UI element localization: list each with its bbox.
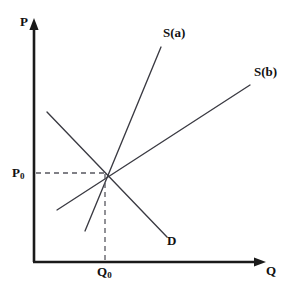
supply-curve-b — [57, 85, 250, 210]
price-axis-label: P — [20, 15, 28, 28]
demand-curve-label: D — [167, 234, 176, 247]
price-equilibrium-base: P — [12, 165, 20, 180]
price-equilibrium-label: P0 — [12, 166, 24, 179]
diagram-canvas — [0, 0, 291, 294]
supply-curve-a-label: S(a) — [163, 26, 185, 39]
quantity-axis-label: Q — [266, 264, 276, 277]
quantity-equilibrium-label: Q0 — [97, 265, 112, 278]
quantity-axis-arrowhead — [254, 257, 266, 266]
price-axis-arrowhead — [29, 18, 38, 30]
supply-curve-a — [85, 47, 161, 231]
quantity-equilibrium-subscript: 0 — [107, 270, 112, 280]
supply-curve-b-label: S(b) — [254, 65, 277, 78]
quantity-equilibrium-base: Q — [97, 264, 107, 279]
demand-curve — [47, 112, 167, 237]
supply-demand-figure: P Q P0 Q0 S(a) S(b) D — [0, 0, 291, 294]
price-equilibrium-subscript: 0 — [20, 171, 25, 181]
